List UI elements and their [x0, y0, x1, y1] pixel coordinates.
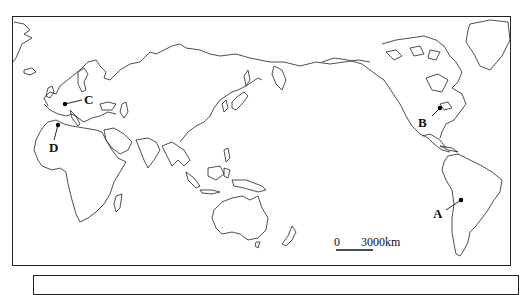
answer-box — [33, 275, 519, 295]
black-sea — [100, 102, 116, 110]
canadian-arctic — [382, 36, 462, 88]
point-b-marker — [438, 106, 442, 110]
madagascar — [114, 194, 122, 212]
new-zealand — [282, 226, 296, 246]
southeast-asia — [162, 142, 190, 166]
point-label-d: D — [49, 140, 58, 156]
gulf-mexico — [422, 134, 446, 148]
cuba — [440, 146, 458, 152]
philippines — [224, 148, 230, 162]
arabia — [104, 128, 132, 154]
point-d-marker — [56, 123, 60, 127]
scandinavia — [78, 68, 88, 92]
hudson-bay — [426, 74, 448, 92]
japan — [232, 92, 248, 110]
borneo — [208, 166, 224, 180]
leader-line-c — [65, 100, 82, 104]
sumatra — [186, 172, 200, 188]
australia — [212, 196, 268, 240]
point-c-marker — [63, 102, 67, 106]
korea — [222, 100, 228, 112]
africa — [34, 120, 126, 222]
scale-distance-label: 3000km — [361, 235, 400, 250]
scale-zero-label: 0 — [334, 235, 340, 250]
point-label-c: C — [84, 92, 93, 108]
point-a-marker — [459, 198, 463, 202]
caspian — [120, 102, 128, 118]
sulawesi — [224, 168, 230, 178]
alaska — [322, 58, 384, 80]
tasmania — [255, 242, 260, 248]
point-label-b: B — [418, 115, 427, 131]
new-guinea — [232, 180, 266, 192]
south-america — [442, 154, 502, 256]
kamchatka — [272, 66, 286, 90]
east-asia-coast — [180, 78, 262, 142]
india — [136, 138, 160, 168]
iceland — [24, 68, 36, 75]
java — [200, 190, 220, 194]
point-label-a: A — [433, 206, 442, 222]
greenland — [466, 20, 510, 70]
leader-line-d — [54, 125, 58, 140]
north-america-west — [384, 80, 450, 152]
north-america-east — [440, 88, 466, 138]
greenland-west — [13, 22, 32, 62]
mediterranean-north — [44, 104, 116, 122]
canadian-islands — [386, 46, 440, 60]
